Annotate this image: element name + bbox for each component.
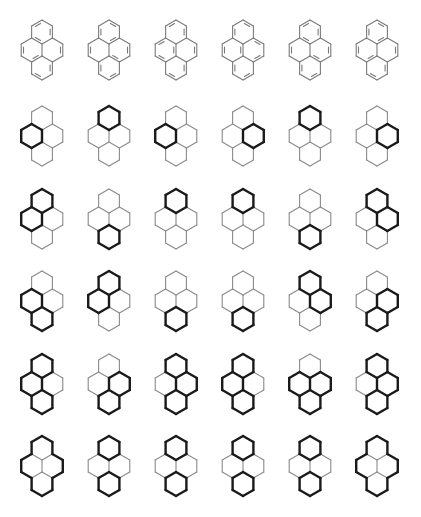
ring-pattern-r4-c6 (347, 263, 407, 339)
ring-pattern-r5-c5 (280, 346, 340, 422)
ring-pattern-r4-c2 (79, 263, 139, 339)
ring-pattern-r5-c6 (347, 346, 407, 422)
kekule-structure-1 (12, 12, 72, 88)
ring-pattern-r2-c1 (12, 98, 72, 174)
ring-pattern-r6-c2 (79, 428, 139, 504)
ring-pattern-r4-c1 (12, 263, 72, 339)
ring-pattern-r3-c6 (347, 181, 407, 257)
kekule-structure-2 (79, 12, 139, 88)
ring-pattern-r6-c6 (347, 428, 407, 504)
ring-pattern-r4-c3 (146, 263, 206, 339)
ring-pattern-r6-c1 (12, 428, 72, 504)
ring-pattern-r6-c4 (213, 428, 273, 504)
pyrene-structure-grid (0, 0, 421, 517)
ring-pattern-r5-c4 (213, 346, 273, 422)
ring-pattern-r6-c3 (146, 428, 206, 504)
ring-pattern-r3-c2 (79, 181, 139, 257)
ring-pattern-r3-c3 (146, 181, 206, 257)
ring-pattern-r6-c5 (280, 428, 340, 504)
ring-pattern-r2-c3 (146, 98, 206, 174)
ring-pattern-r2-c2 (79, 98, 139, 174)
ring-pattern-r4-c5 (280, 263, 340, 339)
kekule-structure-3 (146, 12, 206, 88)
ring-pattern-r3-c4 (213, 181, 273, 257)
ring-pattern-r5-c2 (79, 346, 139, 422)
ring-pattern-r3-c5 (280, 181, 340, 257)
kekule-structure-4 (213, 12, 273, 88)
ring-pattern-r2-c4 (213, 98, 273, 174)
ring-pattern-r2-c6 (347, 98, 407, 174)
ring-pattern-r5-c3 (146, 346, 206, 422)
kekule-structure-5 (280, 12, 340, 88)
ring-pattern-r2-c5 (280, 98, 340, 174)
ring-pattern-r3-c1 (12, 181, 72, 257)
ring-pattern-r4-c4 (213, 263, 273, 339)
kekule-structure-6 (347, 12, 407, 88)
ring-pattern-r5-c1 (12, 346, 72, 422)
